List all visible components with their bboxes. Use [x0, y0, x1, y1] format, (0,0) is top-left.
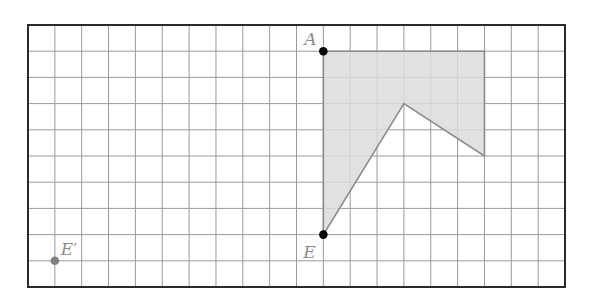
point-E — [319, 230, 328, 239]
point-label-E: E — [302, 242, 316, 262]
point-A — [319, 47, 328, 56]
grid-diagram: AEE′ — [0, 0, 593, 296]
point-E-prime — [51, 257, 60, 266]
point-label-A: A — [302, 29, 316, 49]
point-label-E-prime: E′ — [60, 239, 77, 259]
